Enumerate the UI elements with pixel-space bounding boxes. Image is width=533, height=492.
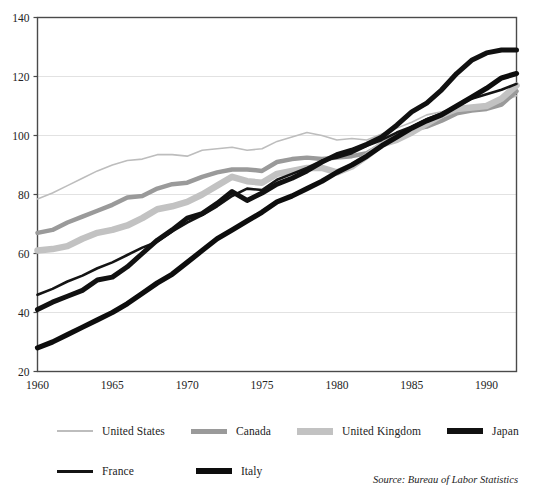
xtick-label-1965: 1965 xyxy=(101,379,124,391)
series-line-italy xyxy=(38,74,517,348)
legend-swatch-united-states xyxy=(57,430,93,432)
line-chart-figure: 2040608010012014019601965197019751980198… xyxy=(0,0,533,492)
ytick-label-60: 60 xyxy=(18,248,30,260)
xtick-label-1990: 1990 xyxy=(475,379,498,391)
source-note: Source: Bureau of Labor Statistics xyxy=(373,474,518,485)
legend-item-italy[interactable]: Italy xyxy=(196,465,263,477)
ytick-label-140: 140 xyxy=(12,12,30,24)
legend-label: United Kingdom xyxy=(342,425,421,437)
chart-legend: United StatesCanadaUnited KingdomJapan F… xyxy=(0,412,533,492)
xtick-label-1980: 1980 xyxy=(325,379,348,391)
ytick-label-20: 20 xyxy=(18,366,30,378)
legend-label: United States xyxy=(102,425,165,437)
legend-item-united-kingdom[interactable]: United Kingdom xyxy=(297,425,421,437)
legend-item-japan[interactable]: Japan xyxy=(447,425,519,437)
ytick-label-120: 120 xyxy=(12,71,30,83)
legend-swatch-united-kingdom xyxy=(297,428,333,435)
legend-label: France xyxy=(102,465,134,477)
legend-swatch-canada xyxy=(191,429,227,434)
legend-row-secondary: FranceItaly xyxy=(57,462,324,480)
legend-swatch-france xyxy=(57,470,93,473)
ytick-label-40: 40 xyxy=(18,307,30,319)
legend-swatch-italy xyxy=(196,468,232,474)
legend-swatch-japan xyxy=(447,428,483,434)
xtick-label-1970: 1970 xyxy=(176,379,199,391)
legend-label: Canada xyxy=(236,425,271,437)
legend-item-canada[interactable]: Canada xyxy=(191,425,271,437)
legend-row-primary: United StatesCanadaUnited KingdomJapan xyxy=(57,422,533,440)
legend-item-france[interactable]: France xyxy=(57,465,134,477)
ytick-label-80: 80 xyxy=(18,189,30,201)
legend-label: Japan xyxy=(492,425,519,437)
xtick-label-1975: 1975 xyxy=(251,379,274,391)
legend-label: Italy xyxy=(241,465,263,477)
ytick-label-100: 100 xyxy=(12,130,30,142)
xtick-label-1985: 1985 xyxy=(400,379,423,391)
xtick-label-1960: 1960 xyxy=(26,379,49,391)
legend-item-united-states[interactable]: United States xyxy=(57,425,165,437)
